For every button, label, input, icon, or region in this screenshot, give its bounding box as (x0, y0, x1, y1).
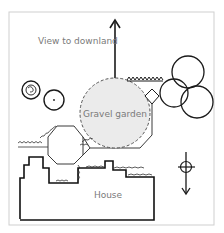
view-label: View to downland (38, 36, 118, 46)
octagon-terrace (48, 126, 83, 164)
gravel-garden-label: Gravel garden (83, 109, 147, 119)
house-label: House (94, 190, 123, 200)
garden-plan-diagram: View to downland Gravel garden (0, 0, 224, 233)
